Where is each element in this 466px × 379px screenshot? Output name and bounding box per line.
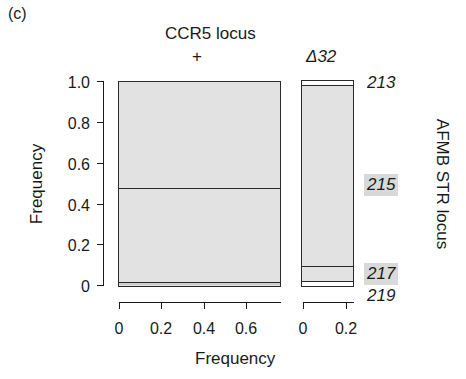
y-tick-label: 0.8: [40, 115, 90, 133]
y-tick-label: 0.6: [40, 156, 90, 174]
column-label-delta32: Δ32: [306, 48, 336, 65]
allele-label-213: 213: [364, 72, 398, 94]
allele-label-219: 219: [364, 285, 398, 307]
y-tick-0.2: [97, 244, 103, 245]
segment-217: [302, 266, 353, 281]
column-label-plus: +: [192, 48, 202, 65]
y-tick-0: [97, 285, 103, 286]
allele-label-215: 215: [364, 174, 398, 196]
y-axis-line: [103, 81, 104, 286]
segment-215: [119, 82, 280, 188]
bar-ccr5-delta32: [301, 80, 354, 287]
x-tick: [119, 302, 120, 309]
x-tick-label: 0.6: [235, 320, 257, 338]
x-axis-label: Frequency: [195, 350, 275, 367]
y-tick-label: 0.4: [40, 197, 90, 215]
bar-ccr5-plus: [118, 81, 281, 287]
x-tick: [161, 302, 162, 309]
y-tick-0.4: [97, 204, 103, 205]
y-tick-0.6: [97, 163, 103, 164]
x-axis-line-plus: [119, 302, 281, 303]
y-tick-0.8: [97, 122, 103, 123]
y-tick-label: 0: [40, 278, 90, 296]
x-tick: [246, 302, 247, 309]
x-tick: [204, 302, 205, 309]
x-tick: [303, 302, 304, 309]
allele-label-217: 217: [364, 263, 398, 285]
right-axis-label: AFMB STR locus: [434, 119, 451, 249]
y-tick-1.0: [97, 81, 103, 82]
y-tick-label: 1.0: [40, 74, 90, 92]
segment-219: [302, 281, 353, 286]
segment-217: [119, 188, 280, 284]
x-tick: [346, 302, 347, 309]
y-tick-label: 0.2: [40, 237, 90, 255]
x-tick-label: 0: [115, 320, 124, 338]
x-tick-label: 0: [299, 320, 308, 338]
segment-219: [119, 282, 280, 285]
x-tick-label: 0.2: [335, 320, 357, 338]
segment-215: [302, 85, 353, 267]
x-tick-label: 0.4: [193, 320, 215, 338]
chart-title: CCR5 locus: [165, 25, 256, 42]
panel-label: (c): [8, 6, 27, 22]
x-tick-label: 0.2: [150, 320, 172, 338]
